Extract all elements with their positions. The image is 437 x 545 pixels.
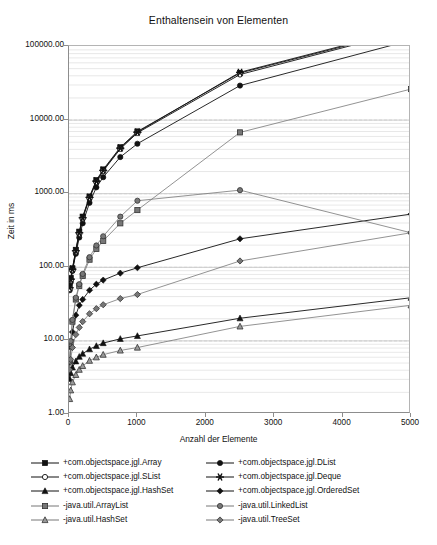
- data-point: [42, 460, 47, 465]
- x-tick-label: 4000: [312, 419, 372, 427]
- legend-item[interactable]: +com.objectspace.jgl.HashSet: [30, 484, 230, 498]
- x-tick-mark: [136, 413, 137, 417]
- legend-label: +com.objectspace.jgl.SList: [63, 473, 160, 481]
- legend-label: -java.util.HashSet: [63, 516, 127, 524]
- data-point: [217, 488, 223, 494]
- legend-item[interactable]: -java.util.LinkedList: [205, 499, 405, 513]
- x-tick-label: 5000: [380, 419, 437, 427]
- legend-item[interactable]: -java.util.ArrayList: [30, 499, 230, 513]
- legend-item[interactable]: -java.util.TreeSet: [205, 513, 405, 527]
- x-tick-label: 3000: [243, 419, 303, 427]
- data-point: [42, 475, 47, 480]
- legend-label: -java.util.TreeSet: [238, 516, 300, 524]
- legend-label: +com.objectspace.jgl.DList: [238, 459, 336, 467]
- legend-label: +com.objectspace.jgl.Deque: [238, 473, 341, 481]
- legend-item[interactable]: +com.objectspace.jgl.DList: [205, 456, 405, 470]
- data-point: [217, 517, 223, 523]
- data-point: [217, 503, 222, 508]
- legend-marker-filled-triangle-icon: [30, 485, 60, 497]
- legend-marker-filled-diamond-icon: [205, 485, 235, 497]
- legend-item[interactable]: +com.objectspace.jgl.SList: [30, 470, 230, 484]
- legend-label: -java.util.LinkedList: [238, 502, 308, 510]
- chart-root: Enthaltensein von Elementen 1.0010.00100…: [0, 0, 437, 545]
- x-tick-mark: [410, 413, 411, 417]
- x-tick-label: 0: [38, 419, 98, 427]
- legend-label: +com.objectspace.jgl.Array: [63, 459, 162, 467]
- legend-column-right: +com.objectspace.jgl.DList+com.objectspa…: [205, 456, 405, 527]
- x-axis-title: Anzahl der Elemente: [0, 434, 437, 444]
- x-tick-mark: [273, 413, 274, 417]
- legend-label: +com.objectspace.jgl.HashSet: [63, 487, 173, 495]
- legend-label: -java.util.ArrayList: [63, 502, 128, 510]
- x-tick-label: 2000: [175, 419, 235, 427]
- legend-marker-filled-square-icon: [30, 457, 60, 469]
- x-tick-mark: [205, 413, 206, 417]
- y-axis-title: Zeit in ms: [6, 191, 16, 251]
- data-point: [42, 503, 47, 508]
- legend-label: +com.objectspace.jgl.OrderedSet: [238, 487, 359, 495]
- legend-marker-gray-diamond-icon: [205, 514, 235, 526]
- legend-column-left: +com.objectspace.jgl.Array+com.objectspa…: [30, 456, 230, 527]
- legend-marker-asterisk-icon: [205, 471, 235, 483]
- legend-marker-filled-circle-icon: [205, 457, 235, 469]
- x-tick-mark: [342, 413, 343, 417]
- x-tick-label: 1000: [106, 419, 166, 427]
- legend-marker-open-circle-icon: [30, 471, 60, 483]
- data-point: [217, 460, 222, 465]
- legend-marker-gray-circle-icon: [205, 500, 235, 512]
- legend-marker-gray-triangle-icon: [30, 514, 60, 526]
- x-tick-mark: [68, 413, 69, 417]
- legend-item[interactable]: +com.objectspace.jgl.OrderedSet: [205, 484, 405, 498]
- legend-item[interactable]: +com.objectspace.jgl.Array: [30, 456, 230, 470]
- legend: +com.objectspace.jgl.Array+com.objectspa…: [30, 456, 430, 532]
- data-point: [217, 474, 224, 480]
- legend-item[interactable]: -java.util.HashSet: [30, 513, 230, 527]
- legend-marker-gray-square-icon: [30, 500, 60, 512]
- legend-item[interactable]: +com.objectspace.jgl.Deque: [205, 470, 405, 484]
